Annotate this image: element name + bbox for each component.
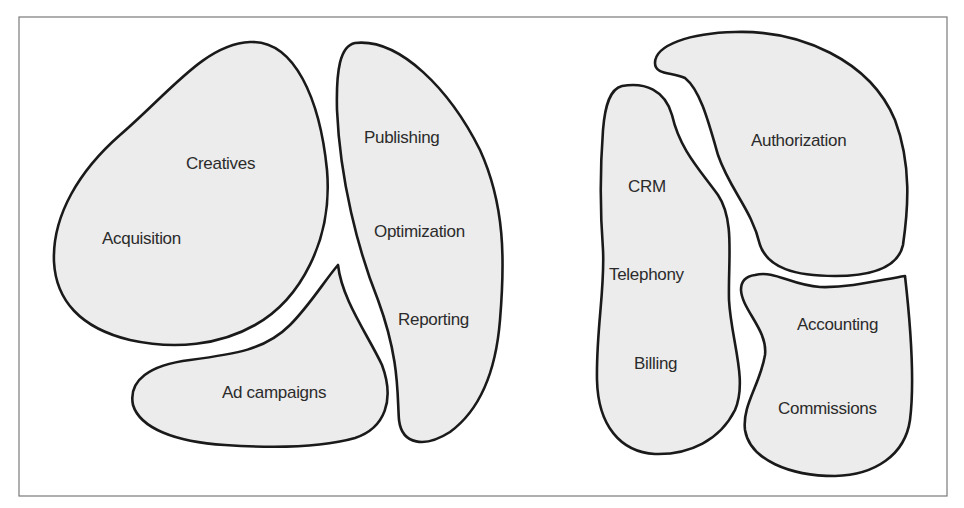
accounting-blob xyxy=(741,274,912,476)
label-ad-campaigns: Ad campaigns xyxy=(222,383,326,402)
label-acquisition: Acquisition xyxy=(102,229,181,248)
diagram-canvas: Creatives Acquisition Ad campaigns Publi… xyxy=(0,0,964,508)
label-telephony: Telephony xyxy=(609,265,685,284)
label-reporting: Reporting xyxy=(398,310,469,329)
label-publishing: Publishing xyxy=(364,128,439,147)
label-billing: Billing xyxy=(634,354,677,373)
label-commissions: Commissions xyxy=(778,399,877,418)
accounting-region: Accounting Commissions xyxy=(741,274,912,476)
label-crm: CRM xyxy=(628,177,666,196)
label-authorization: Authorization xyxy=(751,131,846,150)
label-optimization: Optimization xyxy=(374,222,465,241)
label-accounting: Accounting xyxy=(797,315,878,334)
label-creatives: Creatives xyxy=(186,154,255,173)
